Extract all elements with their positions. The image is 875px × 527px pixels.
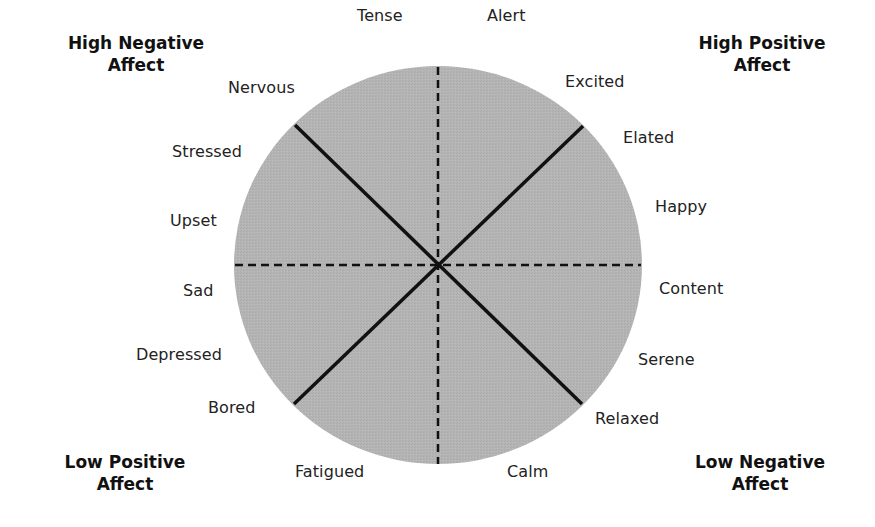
quadrant-label-line2: Affect [695, 473, 825, 495]
affect-circumplex-diagram: High Negative Affect High Positive Affec… [0, 0, 875, 527]
mood-label-sad: Sad [183, 281, 213, 301]
quadrant-high-positive-affect: High Positive Affect [699, 32, 826, 76]
quadrant-label-line1: High Positive [699, 32, 826, 54]
mood-label-depressed: Depressed [136, 345, 222, 365]
mood-label-tense: Tense [357, 6, 403, 26]
quadrant-low-positive-affect: Low Positive Affect [65, 451, 186, 495]
mood-label-relaxed: Relaxed [595, 409, 659, 429]
quadrant-label-line2: Affect [68, 54, 204, 76]
mood-label-upset: Upset [170, 211, 217, 231]
quadrant-label-line1: High Negative [68, 32, 204, 54]
quadrant-label-line2: Affect [699, 54, 826, 76]
mood-label-fatigued: Fatigued [295, 462, 364, 482]
mood-label-stressed: Stressed [172, 142, 242, 162]
quadrant-label-line2: Affect [65, 473, 186, 495]
mood-label-elated: Elated [623, 128, 674, 148]
mood-label-serene: Serene [638, 350, 695, 370]
quadrant-high-negative-affect: High Negative Affect [68, 32, 204, 76]
mood-label-nervous: Nervous [228, 78, 295, 98]
mood-label-bored: Bored [208, 398, 256, 418]
quadrant-low-negative-affect: Low Negative Affect [695, 451, 825, 495]
affect-wheel [0, 0, 875, 527]
quadrant-label-line1: Low Positive [65, 451, 186, 473]
quadrant-label-line1: Low Negative [695, 451, 825, 473]
mood-label-happy: Happy [655, 197, 707, 217]
mood-label-excited: Excited [565, 72, 625, 92]
center-point [435, 262, 441, 268]
mood-label-calm: Calm [507, 462, 548, 482]
mood-label-alert: Alert [487, 6, 526, 26]
mood-label-content: Content [659, 279, 723, 299]
